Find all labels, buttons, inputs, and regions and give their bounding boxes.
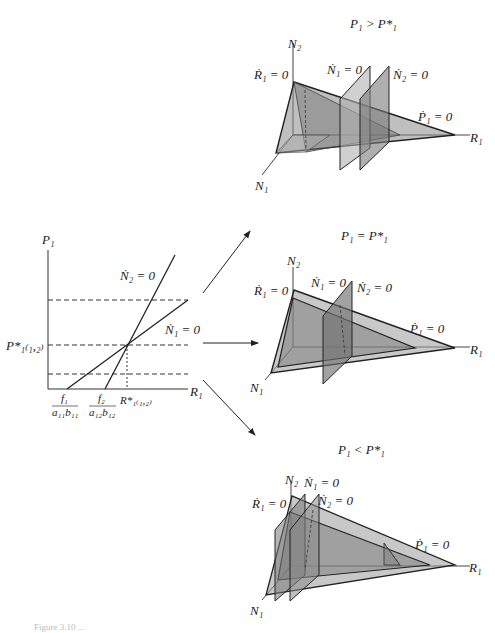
axis-r1: R₁: [469, 130, 482, 145]
label-p1dot: Ṗ₁ = 0: [414, 537, 450, 552]
label-p1dot: Ṗ₁ = 0: [409, 321, 445, 336]
label-n2dot: Ṅ₂ = 0: [356, 280, 392, 295]
label-r1dot: Ṙ₁ = 0: [253, 283, 289, 298]
label-r1dot: Ṙ₁ = 0: [251, 496, 287, 511]
axis-r1: R₁: [468, 560, 481, 575]
svg-text:f₂: f₂: [98, 392, 105, 404]
panel-title: P₁ < P*₁: [337, 442, 385, 457]
arrow-down: [203, 380, 255, 435]
label-n2dot: Ṅ₂ = 0: [317, 493, 353, 508]
arrow-up: [203, 231, 250, 293]
diagram-canvas: P₁ R₁ Ṅ₂ = 0 Ṅ₁ = 0 P*₁₍₁,₂₎ R*₁₍₁,₂₎ f₁…: [0, 0, 495, 633]
label-n1dot: Ṅ₁ = 0: [310, 275, 346, 290]
axis-r1: R₁: [469, 342, 482, 357]
svg-text:a₁₁b₁₁: a₁₁b₁₁: [52, 406, 78, 418]
n2-nullcline-label: Ṅ₂ = 0: [119, 268, 155, 283]
x-tick-2: f₂ a₁₂b₁₂: [89, 392, 116, 418]
label-r1dot: Ṙ₁ = 0: [253, 67, 289, 82]
panel-title: P₁ = P*₁: [340, 228, 388, 243]
axis-n1: N₁: [249, 603, 263, 618]
n1-nullcline-label: Ṅ₁ = 0: [164, 322, 200, 337]
svg-text:a₁₂b₁₂: a₁₂b₁₂: [89, 406, 115, 418]
axis-n1: N₁: [249, 380, 263, 395]
figure-caption: Figure 3.10 ...: [34, 622, 85, 632]
label-p1dot: Ṗ₁ = 0: [417, 109, 453, 124]
axis-n2: N₂: [284, 472, 299, 487]
label-n1dot: Ṅ₁ = 0: [326, 62, 362, 77]
label-n1dot: Ṅ₁ = 0: [303, 475, 339, 490]
panel-title: P₁ > P*₁: [349, 16, 397, 31]
axis-n2: N₂: [287, 36, 302, 51]
x-axis-label: R₁: [189, 384, 202, 399]
axis-n1: N₁: [254, 178, 268, 193]
panel-p-less: P₁ < P*₁ N₂ N₁ R₁ Ṙ₁ = 0 Ṅ₁ = 0 Ṅ₂ = 0 Ṗ…: [249, 442, 481, 618]
panel-p-greater: P₁ > P*₁ N₂ N₁ R₁ Ṙ₁ = 0 Ṅ₁ = 0 Ṅ₂ = 0 Ṗ…: [253, 16, 482, 193]
p-star-label: P*₁₍₁,₂₎: [5, 338, 44, 353]
svg-text:f₁: f₁: [61, 392, 68, 404]
y-axis-label: P₁: [41, 232, 54, 247]
axis-n2: N₂: [286, 253, 301, 268]
left-plot: P₁ R₁ Ṅ₂ = 0 Ṅ₁ = 0 P*₁₍₁,₂₎ R*₁₍₁,₂₎ f₁…: [5, 232, 202, 418]
label-n2dot: Ṅ₂ = 0: [392, 67, 428, 82]
r-star-label: R*₁₍₁,₂₎: [119, 394, 152, 406]
panel-p-equal: P₁ = P*₁ N₂ N₁ R₁ Ṙ₁ = 0 Ṅ₁ = 0 Ṅ₂ = 0 Ṗ…: [249, 228, 482, 395]
x-tick-1: f₁ a₁₁b₁₁: [52, 392, 78, 418]
